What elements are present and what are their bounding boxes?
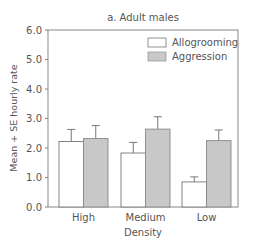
- y-tick-label: 1.0: [26, 172, 42, 183]
- y-axis-label: Mean + SE hourly rate: [8, 64, 19, 171]
- y-tick-label: 6.0: [26, 25, 42, 36]
- x-tick-label: Medium: [126, 212, 166, 223]
- bar-allogrooming-high: [59, 142, 84, 207]
- y-tick-label: 3.0: [26, 113, 42, 124]
- x-tick-label: High: [72, 212, 95, 223]
- y-tick-label: 5.0: [26, 54, 42, 65]
- bar-aggression-low: [207, 141, 232, 207]
- legend-swatch-aggression: [148, 52, 166, 61]
- legend-swatch-allogrooming: [148, 38, 166, 47]
- x-tick-label: Low: [197, 212, 217, 223]
- bar-chart: a. Adult males 0.01.02.03.04.05.06.0 Hig…: [0, 0, 256, 251]
- chart-title: a. Adult males: [107, 12, 179, 23]
- x-axis-label: Density: [124, 227, 162, 238]
- y-tick-label: 4.0: [26, 84, 42, 95]
- legend-label-aggression: Aggression: [172, 51, 227, 62]
- legend: Allogrooming Aggression: [148, 37, 238, 62]
- y-tick-label: 2.0: [26, 143, 42, 154]
- y-axis: 0.01.02.03.04.05.06.0: [26, 25, 48, 213]
- bar-aggression-high: [84, 139, 109, 207]
- bar-aggression-medium: [146, 129, 171, 207]
- bar-allogrooming-low: [182, 182, 207, 207]
- y-tick-label: 0.0: [26, 202, 42, 213]
- x-axis: HighMediumLow: [72, 212, 216, 223]
- legend-label-allogrooming: Allogrooming: [172, 37, 238, 48]
- bar-allogrooming-medium: [121, 153, 146, 207]
